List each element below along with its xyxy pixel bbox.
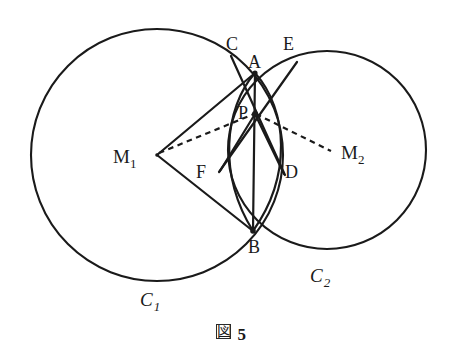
label-center-m2-subscript: 2 [358,152,365,167]
label-center-m1-base: M [113,146,130,167]
figure-caption-number: 5 [238,325,247,344]
circle-labels-group: C1 C2 [140,265,331,314]
solid-segments-group [157,56,297,231]
figure-caption: 図5 [0,324,462,345]
label-circle-c1: C1 [140,289,160,314]
arc-right-a-b [253,73,281,231]
label-circle-c2-subscript: 2 [324,275,331,290]
vertex-dot-m1 [155,153,159,157]
vertex-dot-p [252,111,258,117]
label-circle-c2: C2 [310,265,331,290]
dashed-segment-p-m2 [256,114,331,151]
label-center-m2-base: M [341,142,358,163]
label-point-a: A [248,52,261,72]
label-point-c: C [226,34,238,54]
figure-container: C A E P F D B M1 M2 C1 C2 図 [0,0,462,357]
geometry-diagram: C A E P F D B M1 M2 C1 C2 [0,0,462,357]
label-circle-c2-base: C [310,265,323,286]
vertex-dot-b [250,228,256,234]
label-circle-c1-subscript: 1 [154,299,161,314]
center-labels-group: M1 M2 [113,142,364,171]
label-point-e: E [283,34,294,54]
label-point-b: B [248,237,260,257]
label-point-f: F [196,162,206,182]
label-center-m1: M1 [113,146,136,171]
segment-a-b [253,72,255,231]
label-point-d: D [285,162,298,182]
label-point-p: P [238,103,248,123]
label-center-m2: M2 [341,142,364,167]
circle-c2 [228,51,426,249]
label-center-m1-subscript: 1 [130,156,137,171]
label-circle-c1-base: C [140,289,153,310]
figure-caption-mark: 図 [216,324,231,339]
